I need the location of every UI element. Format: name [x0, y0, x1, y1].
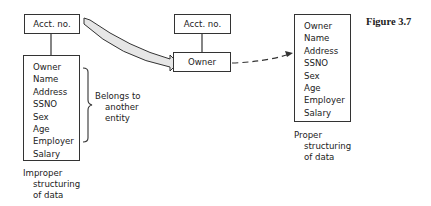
caption-line: Improper [23, 168, 80, 179]
attribute-item: Address [304, 45, 350, 57]
owner-box: Owner [173, 52, 231, 72]
attribute-item: Address [33, 86, 79, 98]
attribute-item: SSNO [33, 98, 79, 110]
improper-caption: Improper structuring of data [23, 168, 80, 201]
attribute-item: Age [33, 123, 79, 135]
hollow-arrow-icon [84, 18, 178, 71]
proper-caption: Proper structuring of data [294, 130, 351, 163]
attribute-item: Owner [33, 61, 79, 73]
caption-line: of data [23, 190, 80, 201]
arrowhead-icon [285, 51, 293, 57]
attribute-item: Salary [304, 107, 350, 119]
middle-acct-no-box: Acct. no. [174, 14, 231, 34]
attribute-item: Employer [304, 94, 350, 106]
owner-label: Owner [188, 57, 216, 67]
attribute-item: Employer [33, 135, 79, 147]
left-acct-no-label: Acct. no. [33, 19, 70, 29]
attribute-item: Sex [304, 70, 350, 82]
figure-label: Figure 3.7 [366, 16, 411, 27]
attribute-item: Salary [33, 148, 79, 160]
brace-note-line: Belongs to [95, 91, 141, 102]
attribute-item: Name [33, 73, 79, 85]
left-attribute-box: Owner Name Address SSNO Sex Age Employer… [23, 55, 80, 161]
caption-line: Proper [294, 130, 351, 141]
brace-icon [83, 68, 92, 142]
caption-line: structuring [23, 179, 80, 190]
caption-line: structuring [294, 141, 351, 152]
attribute-item: Sex [33, 111, 79, 123]
attribute-item: Name [304, 32, 350, 44]
right-attribute-box: Owner Name Address SSNO Sex Age Employer… [294, 14, 351, 122]
attribute-item: SSNO [304, 57, 350, 69]
attribute-item: Age [304, 82, 350, 94]
brace-note-line: another [95, 102, 141, 113]
brace-note-line: entity [95, 113, 141, 124]
left-acct-no-box: Acct. no. [24, 14, 80, 34]
caption-line: of data [294, 152, 351, 163]
middle-acct-no-label: Acct. no. [184, 19, 221, 29]
brace-note: Belongs to another entity [95, 91, 141, 124]
attribute-item: Owner [304, 20, 350, 32]
dashed-arrow [232, 54, 290, 63]
